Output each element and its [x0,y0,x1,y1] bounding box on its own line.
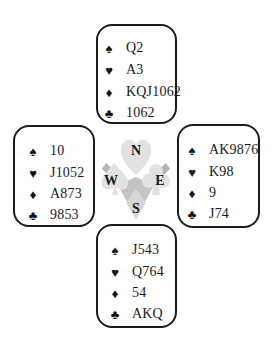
diamond-icon: ♦ [186,187,198,200]
west-diamonds: A873 [50,186,82,202]
east-hearts-row: ♥ K98 [186,162,234,182]
north-hearts-row: ♥ A3 [103,60,144,80]
south-diamonds: 54 [132,285,146,301]
club-icon: ♣ [27,209,39,222]
east-clubs: J74 [209,206,229,222]
north-diamonds-row: ♦ KQJ1062 [103,82,181,102]
west-spades-row: ♠ 10 [27,141,64,161]
south-hearts: Q764 [132,264,164,280]
west-hearts: J1052 [50,165,84,181]
club-icon: ♣ [186,208,198,221]
west-spades: 10 [50,143,64,159]
north-hearts: A3 [126,62,144,78]
east-clubs-row: ♣ J74 [186,204,229,224]
east-hearts: K98 [209,164,234,180]
spade-icon: ♠ [27,145,39,158]
north-clubs-row: ♣ 1062 [103,103,155,123]
compass-east-label: E [155,173,164,188]
compass-suits-icon: N W E S [98,133,174,221]
north-clubs: 1062 [126,105,155,121]
heart-icon: ♥ [27,167,39,180]
compass-south-label: S [132,201,140,216]
north-hand: ♠ Q2 ♥ A3 ♦ KQJ1062 ♣ 1062 [96,24,177,124]
compass-north-label: N [131,143,141,158]
compass-emblem: N W E S [98,133,174,221]
east-hand: ♠ AK9876 ♥ K98 ♦ 9 ♣ J74 [177,124,260,228]
south-hearts-row: ♥ Q764 [109,262,164,282]
west-clubs: 9853 [50,207,79,223]
north-spades-row: ♠ Q2 [103,38,144,58]
south-clubs-row: ♣ AKQ [109,304,163,324]
club-icon: ♣ [109,308,121,321]
west-hand: ♠ 10 ♥ J1052 ♦ A873 ♣ 9853 [13,125,95,227]
spade-icon: ♠ [103,42,115,55]
heart-icon: ♥ [186,166,198,179]
spade-icon: ♠ [109,244,121,257]
diamond-icon: ♦ [109,287,121,300]
east-spades: AK9876 [209,142,258,158]
west-clubs-row: ♣ 9853 [27,205,79,225]
diamond-icon: ♦ [103,86,115,99]
east-diamonds-row: ♦ 9 [186,183,216,203]
south-spades-row: ♠ J543 [109,240,159,260]
spade-icon: ♠ [186,144,198,157]
south-spades: J543 [132,242,159,258]
club-icon: ♣ [103,107,115,120]
south-hand: ♠ J543 ♥ Q764 ♦ 54 ♣ AKQ [96,224,177,328]
compass-west-label: W [104,173,118,188]
east-diamonds: 9 [209,185,216,201]
south-clubs: AKQ [132,306,163,322]
heart-icon: ♥ [109,266,121,279]
north-spades: Q2 [126,40,144,56]
west-hearts-row: ♥ J1052 [27,163,84,183]
north-diamonds: KQJ1062 [126,84,181,100]
south-diamonds-row: ♦ 54 [109,283,146,303]
east-spades-row: ♠ AK9876 [186,140,258,160]
west-diamonds-row: ♦ A873 [27,184,82,204]
heart-icon: ♥ [103,64,115,77]
diamond-icon: ♦ [27,188,39,201]
